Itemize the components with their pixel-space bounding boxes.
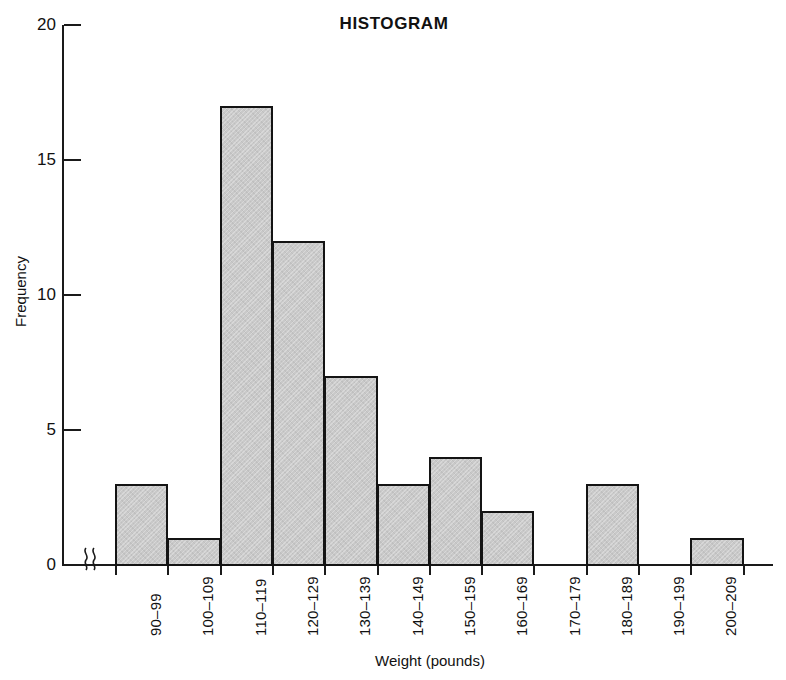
y-axis-title: Frequency — [12, 242, 29, 342]
histogram-bar — [324, 376, 378, 566]
x-axis-category-label: 130–139 — [356, 576, 373, 636]
bars-layer — [0, 0, 786, 680]
x-axis-category-label: 180–189 — [618, 576, 635, 636]
histogram-bar — [272, 241, 325, 566]
histogram-bar — [481, 511, 534, 566]
histogram-bar — [220, 106, 273, 566]
x-axis-category-label: 170–179 — [566, 576, 583, 636]
x-axis-category-label: 160–169 — [513, 576, 530, 636]
histogram-chart: HISTOGRAM 20151050 90–99100–109110–11912… — [0, 0, 786, 680]
x-axis-category-label: 110–119 — [252, 578, 269, 636]
x-axis-category-label: 120–129 — [304, 576, 321, 636]
histogram-bar — [167, 538, 221, 566]
histogram-bar — [690, 538, 744, 566]
x-axis-category-label: 150–159 — [461, 576, 478, 636]
histogram-bar — [115, 484, 168, 566]
histogram-bar — [377, 484, 430, 566]
histogram-bar — [429, 457, 482, 566]
x-axis-title: Weight (pounds) — [310, 652, 550, 669]
histogram-bar — [586, 484, 639, 566]
x-axis-category-label: 190–199 — [670, 576, 687, 636]
axis-break-icon — [80, 546, 102, 572]
x-axis-category-label: 200–209 — [722, 576, 739, 636]
x-axis-category-label: 90–99 — [147, 593, 164, 636]
x-axis-category-label: 140–149 — [409, 576, 426, 636]
x-axis-category-label: 100–109 — [199, 576, 216, 636]
